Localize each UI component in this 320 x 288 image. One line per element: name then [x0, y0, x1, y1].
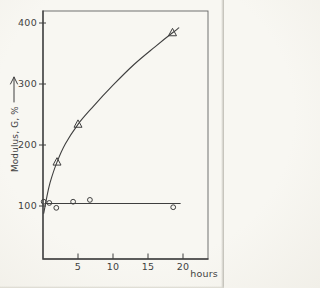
circle-marker: [47, 201, 52, 206]
axes: [43, 11, 208, 259]
scan-edge-artifact: [221, 0, 224, 288]
y-tick-label: 200: [18, 139, 37, 150]
circle-marker: [54, 205, 59, 210]
chart-canvas: 1002003004005101520hoursModulus, G, %: [0, 0, 224, 288]
circle-marker: [171, 205, 176, 210]
circle-marker: [88, 198, 93, 203]
x-tick-label: 10: [107, 261, 120, 272]
y-axis-direction-arrow-icon: [11, 77, 18, 102]
x-axis-title: hours: [190, 268, 218, 279]
rising-curve: [44, 28, 179, 213]
x-tick-label: 15: [142, 261, 155, 272]
y-tick-label: 400: [18, 17, 37, 28]
y-tick-label: 100: [18, 200, 37, 211]
y-tick-label: 300: [18, 78, 37, 89]
x-tick-label: 20: [177, 261, 190, 272]
plot-frame: [43, 11, 208, 259]
y-axis-title: Modulus, G, %: [10, 106, 20, 172]
scanned-figure: 1002003004005101520hoursModulus, G, %: [0, 0, 224, 288]
x-tick-label: 5: [75, 261, 81, 272]
